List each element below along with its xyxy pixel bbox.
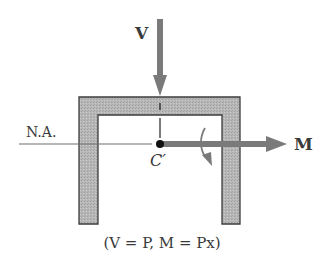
shear-force-label: V [134,23,149,43]
shear-center-label: C′ [150,151,166,170]
neutral-axis-label: N.A. [26,124,56,140]
shear-center-dot [156,140,164,148]
caption: (V = P, M = Px) [103,234,220,252]
shear-center-diagram: V M N.A. C′ (V = P, M = Px) [0,0,328,272]
shear-force-arrow [153,19,167,96]
moment-label: M [294,134,313,154]
